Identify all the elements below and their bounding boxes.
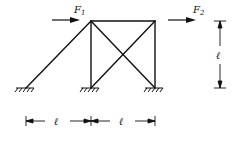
- load-label-f2: F2: [192, 4, 205, 17]
- support-fixed-middle: [80, 88, 99, 92]
- support-fixed-right: [144, 88, 163, 92]
- load-arrow-f2: [168, 17, 196, 23]
- dimension-span-right-label: ℓ: [119, 116, 123, 127]
- dimension-span-left-label: ℓ: [54, 116, 58, 127]
- dimension-height-label: ℓ: [216, 50, 220, 61]
- dimension-spans: [26, 116, 155, 126]
- load-arrow-f1: [52, 17, 80, 23]
- member-inclined-left: [26, 21, 91, 88]
- frame-diagram: F1 F2 ℓ ℓ ℓ: [0, 0, 236, 141]
- support-fixed-left: [15, 88, 34, 92]
- load-label-f1: F1: [73, 4, 85, 17]
